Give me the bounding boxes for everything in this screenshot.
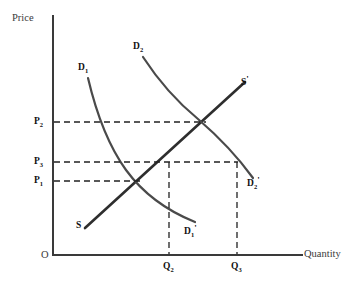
curve-label-d1-prime-text: D [184, 226, 191, 236]
curve-label-d2-prime-text: D [247, 178, 254, 188]
y-tick-p3-sub: 3 [40, 161, 43, 168]
y-tick-p1-sub: 1 [40, 180, 43, 187]
curve-label-d1-text: D [78, 62, 85, 72]
curve-label-d1: D1 [78, 63, 88, 73]
curve-label-s-prime-mark: ' [246, 74, 249, 84]
curve-label-s: S [76, 221, 81, 231]
y-tick-p3-text: P [34, 156, 40, 166]
curve-label-d2-prime: D2' [247, 179, 260, 189]
curve-label-d2-sub: 2 [140, 46, 143, 53]
x-tick-q2-sub: 2 [170, 266, 173, 273]
curve-label-s-text: S [76, 220, 81, 230]
curve-label-s-prime: S' [241, 78, 249, 88]
y-axis-title: Price [12, 13, 34, 24]
y-tick-p1-text: P [34, 175, 40, 185]
x-axis-title: Quantity [304, 249, 341, 260]
curve-label-d2-text: D [133, 41, 140, 51]
supply-demand-figure: Price Quantity O P2 P3 P1 Q2 Q3 D1 D2 D1… [0, 0, 355, 288]
curve-label-d2: D2 [133, 42, 143, 52]
y-tick-p3: P3 [34, 157, 43, 167]
y-tick-p2-sub: 2 [40, 121, 43, 128]
curve-label-d1-prime: D1' [184, 227, 197, 237]
y-tick-p2-text: P [34, 116, 40, 126]
x-tick-q3-sub: 3 [238, 266, 241, 273]
y-tick-p2: P2 [34, 117, 43, 127]
origin-label: O [41, 250, 49, 261]
x-tick-q3: Q3 [231, 262, 242, 272]
demand-curve-1 [88, 78, 195, 222]
curve-label-d1-prime-mark: ' [194, 223, 197, 233]
x-tick-q2: Q2 [163, 262, 174, 272]
diagram-canvas [0, 0, 355, 288]
y-tick-p1: P1 [34, 176, 43, 186]
curve-label-d1-sub: 1 [85, 67, 88, 74]
curve-label-d2-prime-mark: ' [257, 175, 260, 185]
